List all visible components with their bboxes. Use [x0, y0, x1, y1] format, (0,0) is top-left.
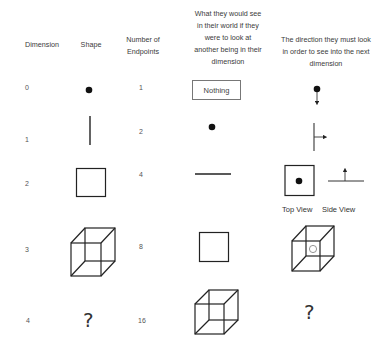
side-view-icon	[328, 170, 364, 181]
square-shape-2d	[77, 169, 106, 197]
point-with-arrow-down-icon	[314, 86, 321, 103]
cube-with-circle-icon	[292, 226, 334, 271]
point-view-1d	[209, 124, 216, 131]
line-with-arrow-right-icon	[314, 123, 325, 151]
point-shape-0d	[86, 87, 93, 94]
top-view-icon	[285, 166, 314, 196]
diagram-figures	[0, 0, 391, 355]
cube-shape-3d	[71, 228, 115, 276]
cube-view-4d	[195, 290, 238, 334]
square-view-3d	[200, 233, 229, 262]
